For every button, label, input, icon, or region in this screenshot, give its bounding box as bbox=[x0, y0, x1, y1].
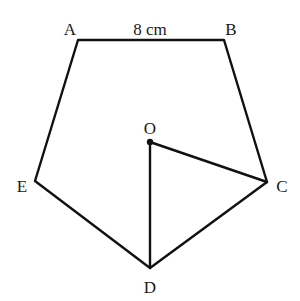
vertex-label-a: A bbox=[64, 20, 77, 39]
vertex-label-b: B bbox=[225, 20, 236, 39]
center-label-o: O bbox=[144, 119, 156, 138]
center-point-o bbox=[147, 139, 153, 145]
pentagon-diagram: A B C D E O 8 cm bbox=[0, 0, 300, 301]
vertex-label-c: C bbox=[276, 177, 287, 196]
vertex-label-d: D bbox=[144, 278, 156, 297]
segment-oc bbox=[150, 142, 267, 182]
vertex-label-e: E bbox=[17, 177, 27, 196]
side-length-label: 8 cm bbox=[133, 20, 167, 39]
